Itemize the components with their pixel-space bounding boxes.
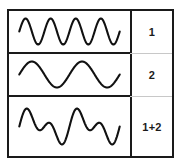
label-cell-wave-1: 1 (132, 11, 172, 53)
wave-table: 1 2 1+2 (7, 9, 174, 158)
plot-cell-wave-sum (9, 97, 130, 156)
wave-2-label: 2 (149, 69, 155, 81)
wave-1-plot (9, 11, 130, 52)
wave-1-path (19, 19, 119, 45)
wave-1-label: 1 (149, 26, 155, 38)
wave-2-path (19, 62, 119, 88)
plot-cell-wave-2 (9, 54, 130, 95)
wave-sum-plot (9, 97, 130, 156)
wave-2-plot (9, 54, 130, 95)
label-cell-wave-2: 2 (132, 54, 172, 96)
label-cell-wave-sum: 1+2 (132, 97, 172, 156)
wave-sum-path (19, 109, 119, 145)
wave-superposition-figure: 1 2 1+2 (0, 0, 181, 166)
wave-sum-label: 1+2 (142, 121, 162, 133)
plot-cell-wave-1 (9, 11, 130, 52)
